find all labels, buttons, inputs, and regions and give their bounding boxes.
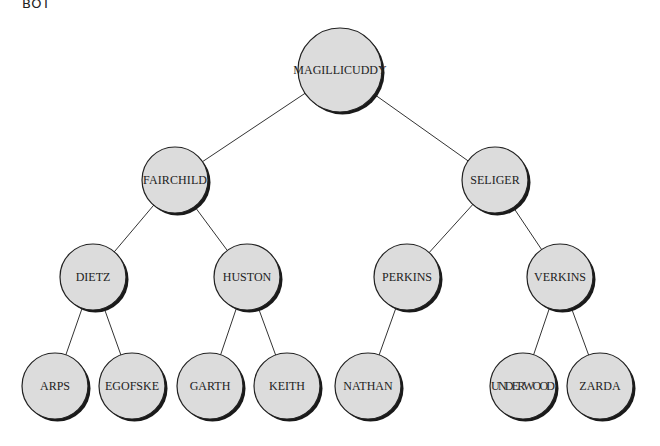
node-verkins: VERKINS	[527, 244, 596, 313]
node-label: UNDERWOOD	[491, 379, 555, 393]
binary-tree-diagram: MAGILLICUDDYFAIRCHILDSELIGERDIETZHUSTONP…	[0, 0, 660, 446]
node-keith: KEITH	[254, 353, 323, 422]
node-label: PERKINS	[382, 270, 432, 284]
node-label: VERKINS	[534, 270, 586, 284]
node-label: ZARDA	[579, 379, 621, 393]
node-label: GARTH	[190, 379, 231, 393]
node-garth: GARTH	[177, 353, 246, 422]
nodes-group: MAGILLICUDDYFAIRCHILDSELIGERDIETZHUSTONP…	[22, 28, 636, 422]
node-label: HUSTON	[223, 270, 272, 284]
node-arps: ARPS	[22, 353, 91, 422]
node-underwood: UNDERWOOD	[490, 353, 559, 422]
node-nathan: NATHAN	[335, 353, 404, 422]
node-magillicuddy: MAGILLICUDDY	[293, 28, 387, 115]
node-label: ARPS	[40, 379, 70, 393]
node-label: DIETZ	[76, 270, 111, 284]
node-fairchild: FAIRCHILD	[142, 147, 211, 216]
node-zarda: ZARDA	[567, 353, 636, 422]
edges-group	[55, 70, 600, 386]
node-label: KEITH	[269, 379, 305, 393]
node-huston: HUSTON	[214, 244, 283, 313]
node-label: EGOFSKE	[105, 379, 159, 393]
node-perkins: PERKINS	[374, 244, 443, 313]
node-label: FAIRCHILD	[143, 173, 207, 187]
node-dietz: DIETZ	[60, 244, 129, 313]
node-label: MAGILLICUDDY	[293, 63, 387, 77]
node-label: NATHAN	[343, 379, 393, 393]
node-egofske: EGOFSKE	[99, 353, 168, 422]
node-label: SELIGER	[470, 173, 519, 187]
